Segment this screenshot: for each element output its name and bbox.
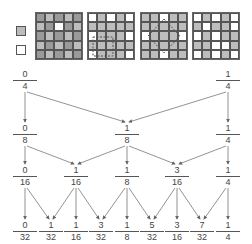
denominator: 32: [190, 232, 214, 242]
fraction-node: 18: [115, 124, 139, 145]
arrow-edge: [154, 188, 175, 219]
numerator: 1: [216, 221, 240, 232]
arrow-edge: [129, 92, 226, 122]
arrow-edge: [129, 188, 150, 219]
numerator: 1: [64, 166, 88, 177]
denominator: 32: [140, 232, 164, 242]
numerator: 1: [64, 221, 88, 232]
numerator: 5: [140, 221, 164, 232]
denominator: 32: [89, 232, 113, 242]
arrow-edge: [78, 188, 99, 219]
fraction-node: 732: [190, 221, 214, 242]
denominator: 4: [216, 135, 240, 145]
denominator: 4: [216, 232, 240, 242]
fraction-node: 532: [140, 221, 164, 242]
arrow-edge: [78, 146, 125, 164]
fraction-node: 032: [13, 221, 37, 242]
denominator: 4: [13, 81, 37, 91]
fraction-node: 14: [216, 221, 240, 242]
numerator: 3: [165, 221, 189, 232]
dashed-square-overlay: [93, 37, 113, 56]
numerator: 7: [190, 221, 214, 232]
fraction-node: 18: [115, 221, 139, 242]
numerator: 3: [165, 166, 189, 177]
denominator: 8: [115, 135, 139, 145]
numerator: 0: [13, 221, 37, 232]
denominator: 8: [115, 177, 139, 187]
fraction-node: 14: [216, 166, 240, 187]
fraction-node: 116: [64, 166, 88, 187]
arrows-layer: [0, 0, 252, 244]
arrow-edge: [129, 146, 175, 164]
arrow-edge: [27, 146, 74, 164]
numerator: 1: [115, 166, 139, 177]
dashed-diamond-overlay: [148, 19, 180, 53]
denominator: 8: [115, 232, 139, 242]
fraction-node: 04: [13, 70, 37, 91]
numerator: 1: [115, 124, 139, 135]
denominator: 4: [216, 81, 240, 91]
denominator: 4: [216, 177, 240, 187]
numerator: 0: [13, 166, 37, 177]
arrow-edge: [179, 146, 226, 164]
numerator: 0: [13, 70, 37, 81]
denominator: 16: [165, 177, 189, 187]
denominator: 16: [165, 232, 189, 242]
denominator: 16: [13, 177, 37, 187]
fraction-node: 18: [115, 166, 139, 187]
denominator: 8: [13, 135, 37, 145]
numerator: 1: [216, 124, 240, 135]
fraction-node: 316: [165, 221, 189, 242]
fraction-node: 132: [39, 221, 63, 242]
fraction-node: 14: [216, 70, 240, 91]
numerator: 1: [39, 221, 63, 232]
arrow-edge: [103, 188, 125, 219]
fraction-node: 332: [89, 221, 113, 242]
arrow-edge: [204, 188, 226, 219]
fraction-node: 14: [216, 124, 240, 145]
numerator: 1: [216, 166, 240, 177]
numerator: 1: [115, 221, 139, 232]
fraction-node: 016: [13, 166, 37, 187]
denominator: 16: [64, 232, 88, 242]
arrow-edge: [179, 188, 200, 219]
denominator: 16: [64, 177, 88, 187]
fraction-node: 116: [64, 221, 88, 242]
numerator: 1: [216, 70, 240, 81]
fraction-node: 08: [13, 124, 37, 145]
arrow-edge: [27, 92, 125, 122]
arrow-edge: [53, 188, 74, 219]
numerator: 3: [89, 221, 113, 232]
numerator: 0: [13, 124, 37, 135]
denominator: 32: [39, 232, 63, 242]
arrow-edge: [27, 188, 49, 219]
fraction-node: 316: [165, 166, 189, 187]
denominator: 32: [13, 232, 37, 242]
diagram-canvas: 0414081814016116183161403213211633218532…: [0, 0, 252, 244]
